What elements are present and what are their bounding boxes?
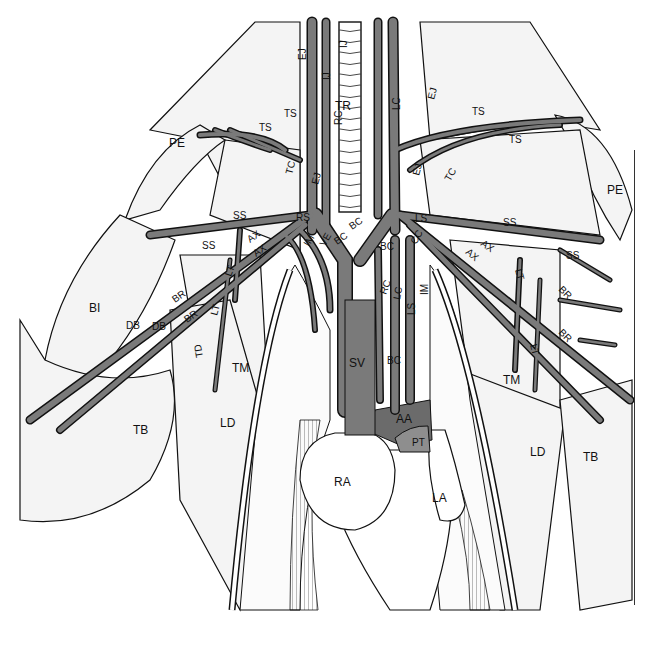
label-LA: LA <box>432 491 447 505</box>
label-EJ-left-upper: EJ <box>297 48 308 60</box>
label-TB-left: TB <box>133 423 148 437</box>
anatomical-illustration: TR EJ EJ IJ IJ RC LC EJ EJ PE TS TS TC S… <box>0 0 652 652</box>
label-PE-right: PE <box>607 183 623 197</box>
label-BC-lower: BC <box>387 355 401 366</box>
label-TS-left-upper: TS <box>284 108 297 119</box>
label-RA: RA <box>334 475 351 489</box>
label-LS: LS <box>415 213 428 224</box>
label-AA: AA <box>396 412 412 426</box>
label-TM-left: TM <box>232 361 249 375</box>
label-TB-right: TB <box>583 450 598 464</box>
label-TS-left-lower: TS <box>259 122 272 133</box>
label-TS-right-lower: TS <box>509 134 522 145</box>
label-TM-right: TM <box>503 373 520 387</box>
label-TS-right-upper: TS <box>472 106 485 117</box>
label-RS: RS <box>296 212 310 223</box>
label-IM-center: IM <box>419 284 430 295</box>
label-LD-left: LD <box>220 416 236 430</box>
figure-right-border <box>634 150 635 605</box>
label-DB-left-1: DB <box>126 320 140 331</box>
label-IJ-left: IJ <box>321 72 332 80</box>
label-SV: SV <box>349 356 365 370</box>
label-LC-center: LC <box>391 286 404 301</box>
label-EJ-left-lower: EJ <box>309 171 323 185</box>
label-SS-left-upper: SS <box>233 210 247 221</box>
label-BC-center-right: BC <box>380 241 394 252</box>
label-TD: TD <box>192 344 205 359</box>
label-IJ-right: IJ <box>338 40 349 48</box>
label-SS-left-lower: SS <box>202 240 216 251</box>
label-BI: BI <box>89 301 100 315</box>
label-LC-upper: LC <box>391 97 402 110</box>
label-PE-left: PE <box>169 136 185 150</box>
label-BC-center-left: BC <box>347 215 365 232</box>
label-RC-upper: RC <box>333 111 344 125</box>
label-LS-center: LS <box>406 302 417 315</box>
label-SS-right-lower: SS <box>566 250 580 261</box>
label-LD-right: LD <box>530 445 546 459</box>
label-SS-right-upper: SS <box>503 217 517 228</box>
label-DB-left-2: DB <box>152 321 166 332</box>
label-PT: PT <box>412 437 425 448</box>
